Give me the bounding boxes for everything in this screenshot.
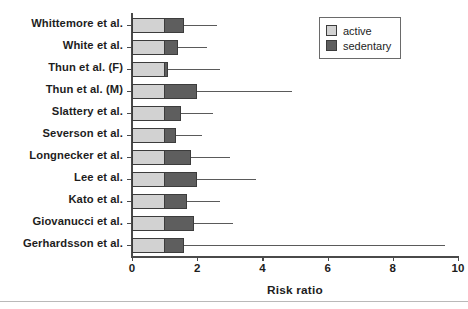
x-axis-tick [393,256,394,261]
y-axis-label: Longnecker et al. [29,149,123,161]
bar-segment-sedentary [164,172,198,187]
y-axis-label: Gerhardsson et al. [23,237,123,249]
bar-segment-sedentary [164,238,185,253]
plot-area: Whittemore et al.White et al.Thun et al.… [132,14,458,256]
bottom-divider [0,301,468,302]
x-axis-tick-label: 6 [324,262,330,274]
error-bar [191,157,230,158]
bar-segment-sedentary [164,40,178,55]
error-bar [168,69,220,70]
bar-segment-active [132,128,165,143]
chart-row: Whittemore et al. [132,15,458,37]
bar-segment-sedentary [164,106,181,121]
y-axis-label: Whittemore et al. [31,17,123,29]
x-axis-tick-label: 4 [259,262,265,274]
bar-segment-active [132,62,165,77]
x-axis-tick-label: 8 [390,262,396,274]
y-axis-label: Kato et al. [68,193,123,205]
chart-row: Slattery et al. [132,103,458,125]
error-bar [187,201,220,202]
bar-segment-active [132,172,165,187]
chart-row: Thun et al. (M) [132,81,458,103]
y-axis-label: Severson et al. [43,127,123,139]
chart-row: Thun et al. (F) [132,59,458,81]
bar-segment-active [132,40,165,55]
error-bar [194,223,233,224]
legend-label-sedentary: sedentary [343,40,391,52]
error-bar [197,91,292,92]
risk-ratio-chart: Whittemore et al.White et al.Thun et al.… [0,0,468,309]
x-axis-title: Risk ratio [132,283,458,297]
chart-row: Lee et al. [132,169,458,191]
x-axis-tick-label: 0 [129,262,135,274]
y-axis-label: Thun et al. (M) [46,83,123,95]
bar-segment-active [132,84,165,99]
bar-segment-sedentary [164,128,177,143]
chart-row: Giovanucci et al. [132,213,458,235]
x-axis-tick-label: 10 [452,262,465,274]
chart-row: Kato et al. [132,191,458,213]
bar-segment-active [132,238,165,253]
chart-row: Gerhardsson et al. [132,235,458,257]
legend-item-sedentary: sedentary [326,38,391,53]
chart-row: Severson et al. [132,125,458,147]
chart-legend: active sedentary [319,17,401,59]
x-axis-tick [458,256,459,261]
chart-row: Longnecker et al. [132,147,458,169]
y-axis-label: Slattery et al. [52,105,123,117]
x-axis-tick [197,256,198,261]
legend-item-active: active [326,23,391,38]
x-axis-tick-label: 2 [194,262,200,274]
x-axis-tick [328,256,329,261]
bar-segment-active [132,106,165,121]
bar-segment-active [132,18,165,33]
legend-swatch-active-icon [326,25,337,36]
chart-row: White et al. [132,37,458,59]
bar-segment-sedentary [164,84,198,99]
error-bar [184,25,217,26]
bar-segment-sedentary [164,216,194,231]
legend-swatch-sedentary-icon [326,40,337,51]
y-axis-label: White et al. [63,39,123,51]
bar-segment-sedentary [164,150,191,165]
error-bar [181,113,214,114]
error-bar [197,179,256,180]
bar-segment-sedentary [164,194,188,209]
x-axis-tick [132,256,133,261]
y-axis-label: Lee et al. [74,171,123,183]
bar-segment-active [132,150,165,165]
bar-segment-sedentary [164,62,168,77]
x-axis-tick [262,256,263,261]
legend-label-active: active [343,25,372,37]
bar-segment-sedentary [164,18,185,33]
error-bar [176,135,202,136]
error-bar [184,245,445,246]
error-bar [178,47,207,48]
bar-segment-active [132,194,165,209]
y-axis-label: Thun et al. (F) [48,61,123,73]
bar-segment-active [132,216,165,231]
y-axis-label: Giovanucci et al. [32,215,123,227]
